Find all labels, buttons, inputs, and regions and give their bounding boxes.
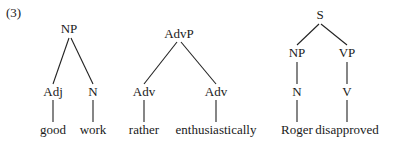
node-np: NP (289, 46, 306, 60)
word-good: good (40, 123, 66, 137)
node-advp: AdvP (164, 27, 194, 41)
node-adv-left: Adv (133, 85, 155, 99)
node-adv-right: Adv (205, 85, 227, 99)
word-roger: Roger (281, 123, 313, 137)
node-s: S (316, 8, 323, 22)
node-n: N (292, 85, 301, 99)
node-adj: Adj (43, 85, 63, 99)
word-enthusiastically: enthusiastically (176, 123, 257, 137)
node-n: N (88, 85, 97, 99)
word-disapproved: disapproved (315, 123, 379, 137)
example-number: (3) (6, 6, 21, 20)
word-work: work (80, 123, 107, 137)
node-np: NP (61, 22, 78, 36)
node-v: V (342, 85, 351, 99)
word-rather: rather (129, 123, 159, 137)
node-vp: VP (339, 46, 356, 60)
